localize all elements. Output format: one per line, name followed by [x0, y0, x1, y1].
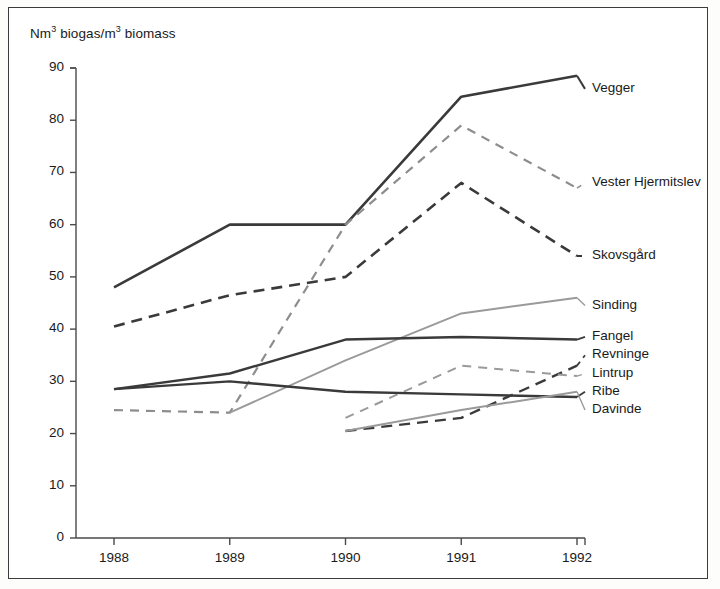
series-label-revninge: Revninge	[592, 346, 649, 361]
axes	[76, 68, 585, 538]
chart-figure: Nm3 biogas/m3 biomass 010203040506070809…	[0, 0, 720, 589]
series-label-ribe: Ribe	[592, 383, 620, 398]
y-tick-label-50: 50	[30, 268, 64, 283]
y-tick-label-70: 70	[30, 163, 64, 178]
x-tick-label-1992: 1992	[547, 550, 607, 565]
x-tick-label-1988: 1988	[84, 550, 144, 565]
series-line-fangel	[114, 337, 577, 389]
y-tick-label-80: 80	[30, 111, 64, 126]
series-leader-lintrup	[577, 374, 585, 377]
series-leader-sinding	[577, 298, 585, 306]
series-label-vester-hjermitslev: Vester Hjermitslev	[592, 174, 701, 189]
series-label-sinding: Sinding	[592, 297, 637, 312]
series-leader-fangel	[577, 337, 585, 340]
y-tick-label-10: 10	[30, 477, 64, 492]
y-tick-label-90: 90	[30, 59, 64, 74]
series-line-revninge	[346, 366, 578, 431]
series-leader-vegger	[577, 76, 585, 89]
series-leader-revninge	[577, 355, 585, 365]
y-tick-label-0: 0	[30, 529, 64, 544]
series-label-skovsg-rd: Skovsgård	[592, 247, 656, 262]
series-line-skovsg-rd	[114, 183, 577, 327]
x-tick-label-1991: 1991	[431, 550, 491, 565]
y-tick-label-20: 20	[30, 425, 64, 440]
series-line-davinde	[346, 392, 578, 431]
y-tick-label-30: 30	[30, 372, 64, 387]
x-tick-label-1989: 1989	[200, 550, 260, 565]
series-label-lintrup: Lintrup	[592, 365, 633, 380]
series-line-vegger	[114, 76, 577, 287]
series-label-davinde: Davinde	[592, 401, 642, 416]
x-tick-label-1990: 1990	[316, 550, 376, 565]
y-tick-label-60: 60	[30, 216, 64, 231]
series-label-fangel: Fangel	[592, 328, 633, 343]
series-label-vegger: Vegger	[592, 80, 635, 95]
y-tick-label-40: 40	[30, 320, 64, 335]
series-line-ribe	[114, 381, 577, 397]
series-line-vester-hjermitslev	[114, 125, 577, 412]
series-leader-vester-hjermitslev	[577, 183, 585, 188]
